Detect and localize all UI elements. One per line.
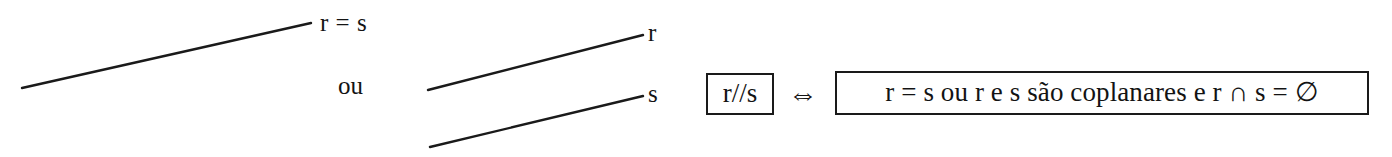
label-line-r: r xyxy=(648,20,656,45)
formula-right-box-text: r = s ou r e s são coplanares e r ∩ s = … xyxy=(878,76,1325,111)
line-r-equals-s xyxy=(22,23,311,88)
parallel-lines-definition-figure: r = s ou r s r//s ⇔ r = s ou r e s são c… xyxy=(0,0,1392,157)
label-connector-ou: ou xyxy=(338,73,363,98)
label-line-s: s xyxy=(648,81,658,106)
formula-left-box: r//s xyxy=(706,73,774,115)
formula-left-box-text: r//s xyxy=(723,78,758,111)
line-s xyxy=(430,96,643,147)
formula-right-box: r = s ou r e s são coplanares e r ∩ s = … xyxy=(835,71,1369,115)
equivalence-icon: ⇔ xyxy=(783,74,823,114)
label-line-r-equals-s: r = s xyxy=(320,10,367,35)
line-r xyxy=(428,35,643,90)
